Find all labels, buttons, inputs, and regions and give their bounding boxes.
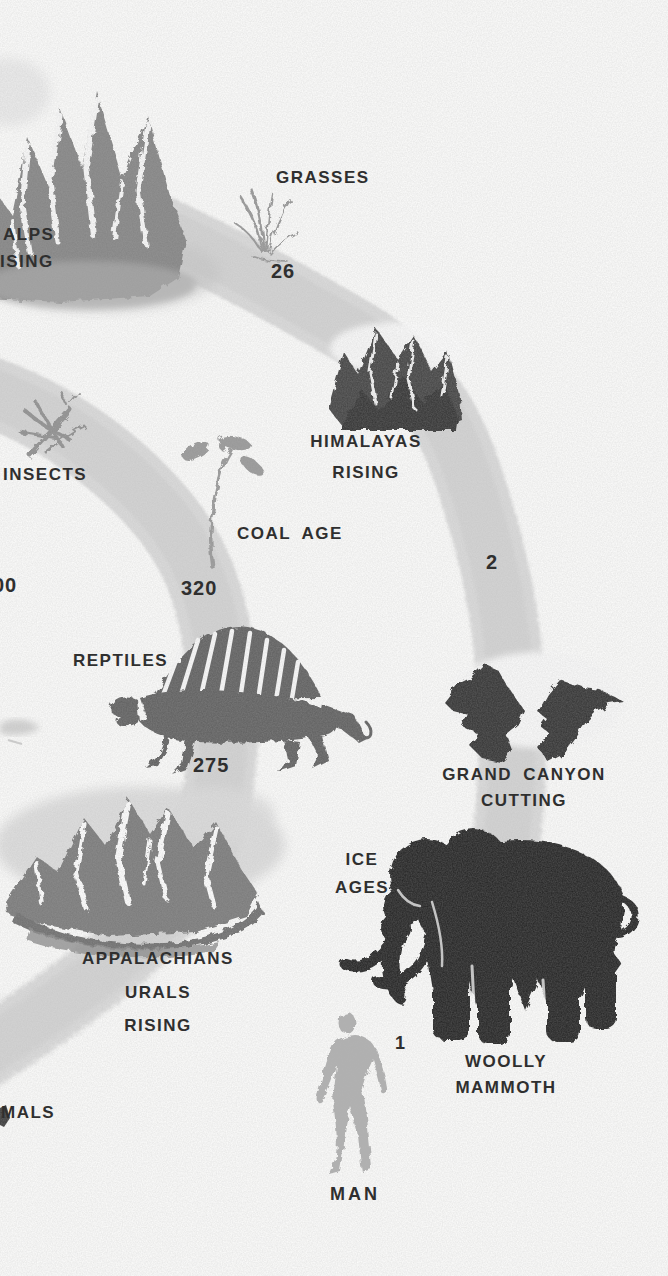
man-label: MAN: [330, 1185, 380, 1203]
time-marker-partial-left-edge: 00: [0, 575, 17, 595]
appalachians-label-line2: URALS: [57, 984, 259, 1001]
woolly-mammoth-label-line2: MAMMOTH: [428, 1079, 584, 1096]
reptiles-label: REPTILES: [73, 652, 168, 669]
time-marker-320: 320: [181, 578, 217, 598]
time-marker-2: 2: [486, 552, 498, 572]
geologic-time-illustration: ALPS ISING GRASSES 26 HIMALAYAS RISING I…: [0, 0, 668, 1276]
appalachians-label-line1: APPALACHIANS: [57, 950, 259, 967]
himalayas-label-line2: RISING: [306, 464, 426, 481]
time-marker-26: 26: [271, 261, 295, 281]
coal-age-label: COAL AGE: [237, 525, 343, 542]
grand-canyon-label-line1: GRAND CANYON: [424, 766, 624, 783]
grasses-label: GRASSES: [276, 169, 370, 186]
alps-label-line1: ALPS: [3, 226, 54, 243]
time-marker-1: 1: [395, 1034, 406, 1052]
ice-ages-label-line2: AGES: [330, 879, 394, 896]
grand-canyon-label-line2: CUTTING: [424, 792, 624, 809]
appalachians-label-line3: RISING: [57, 1017, 259, 1034]
himalayas-label-line1: HIMALAYAS: [306, 433, 426, 450]
time-marker-275: 275: [193, 755, 229, 775]
alps-label-line2: ISING: [0, 253, 54, 270]
mammals-partial-label: MALS: [1, 1104, 55, 1121]
woolly-mammoth-label-line1: WOOLLY: [428, 1053, 584, 1070]
ice-ages-label-line1: ICE: [330, 851, 394, 868]
insects-label: INSECTS: [3, 466, 87, 483]
